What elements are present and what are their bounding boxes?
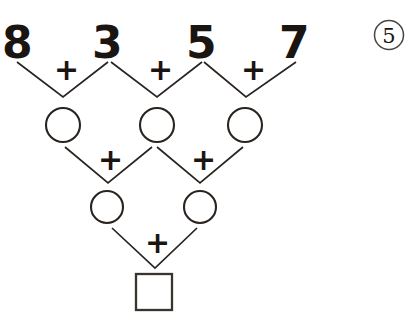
plus-operator-row0-3: + bbox=[241, 52, 266, 87]
answer-circle-r1c0[interactable] bbox=[46, 108, 80, 142]
pyramid-number-r0c2: 5 bbox=[186, 17, 217, 68]
plus-operator-row1-2: + bbox=[191, 142, 216, 177]
answer-circle-r2c0[interactable] bbox=[91, 191, 123, 223]
addition-pyramid-figure: 8 3 5 7 + + + + + + 5 bbox=[0, 0, 411, 329]
exercise-number-badge-label: 5 bbox=[382, 24, 395, 48]
answer-circle-r1c2[interactable] bbox=[228, 108, 262, 142]
answer-circle-r2c1[interactable] bbox=[184, 191, 216, 223]
plus-operator-row1-1: + bbox=[98, 142, 123, 177]
answer-square-r3c0[interactable] bbox=[136, 274, 172, 310]
pyramid-number-r0c1: 3 bbox=[92, 17, 123, 68]
plus-operator-row0-2: + bbox=[148, 52, 173, 87]
answer-circle-r1c1[interactable] bbox=[140, 108, 174, 142]
pyramid-number-r0c0: 8 bbox=[2, 17, 33, 68]
pyramid-number-r0c3: 7 bbox=[279, 17, 310, 68]
plus-operator-row2-1: + bbox=[145, 225, 170, 260]
plus-operator-row0-1: + bbox=[54, 52, 79, 87]
addition-pyramid-worksheet: 8 3 5 7 + + + + + + 5 bbox=[0, 0, 411, 329]
